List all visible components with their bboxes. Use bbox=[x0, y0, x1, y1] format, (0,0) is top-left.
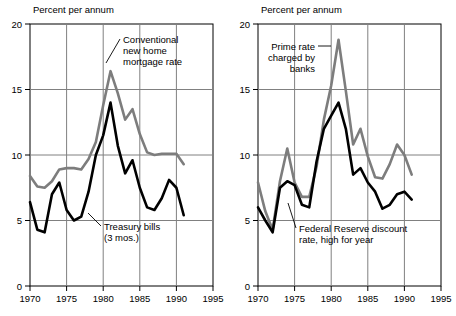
right-xtick-1980: 1980 bbox=[321, 293, 342, 304]
left-y-ticks bbox=[25, 24, 30, 286]
annot-b-line1: Treasury bills bbox=[104, 221, 160, 232]
right-ytick-10: 10 bbox=[239, 150, 250, 161]
left-ytick-10: 10 bbox=[11, 150, 22, 161]
right-xtick-1985: 1985 bbox=[357, 293, 378, 304]
left-x-ticks bbox=[30, 286, 213, 291]
annot-a-line1: Conventional bbox=[123, 34, 178, 45]
right-xtick-1990: 1990 bbox=[394, 293, 415, 304]
right-y-ticks bbox=[253, 24, 258, 286]
left-xtick-1970: 1970 bbox=[19, 293, 40, 304]
annot-a-line3: banks bbox=[290, 63, 316, 74]
annot-a-line3: mortgage rate bbox=[123, 56, 182, 67]
right-xtick-1975: 1975 bbox=[284, 293, 305, 304]
right-ytick-5: 5 bbox=[245, 215, 250, 226]
annot-b-line2: rate, high for year bbox=[299, 234, 373, 245]
annot-a-line2: charged by bbox=[268, 52, 315, 63]
left-ytick-5: 5 bbox=[17, 215, 22, 226]
left-ytick-20: 20 bbox=[11, 19, 22, 30]
left-ytick-15: 15 bbox=[11, 84, 22, 95]
right-axis-title: Percent per annum bbox=[261, 4, 342, 15]
chart-panel-left: Percent per annum bbox=[0, 0, 228, 316]
left-xtick-1980: 1980 bbox=[93, 293, 114, 304]
interest-rate-chart-pair: Percent per annum bbox=[0, 0, 456, 316]
annot-b-line2: (3 mos.) bbox=[104, 232, 139, 243]
left-axis-title: Percent per annum bbox=[33, 4, 114, 15]
left-xtick-1995: 1995 bbox=[202, 293, 223, 304]
right-xtick-1995: 1995 bbox=[430, 293, 451, 304]
left-xtick-1985: 1985 bbox=[129, 293, 150, 304]
annot-a-line1: Prime rate bbox=[271, 41, 315, 52]
right-ytick-0: 0 bbox=[245, 281, 250, 292]
right-x-ticks bbox=[258, 286, 441, 291]
left-ytick-0: 0 bbox=[17, 281, 22, 292]
annot-b-line1: Federal Reserve discount bbox=[299, 223, 408, 234]
right-ytick-15: 15 bbox=[239, 84, 250, 95]
left-chart-svg: Percent per annum bbox=[0, 0, 228, 316]
right-ytick-20: 20 bbox=[239, 19, 250, 30]
left-xtick-1975: 1975 bbox=[56, 293, 77, 304]
annot-a-line2: new home bbox=[123, 45, 167, 56]
left-xtick-1990: 1990 bbox=[166, 293, 187, 304]
right-chart-svg: Percent per annum bbox=[228, 0, 456, 316]
right-xtick-1970: 1970 bbox=[247, 293, 268, 304]
chart-panel-right: Percent per annum bbox=[228, 0, 456, 316]
